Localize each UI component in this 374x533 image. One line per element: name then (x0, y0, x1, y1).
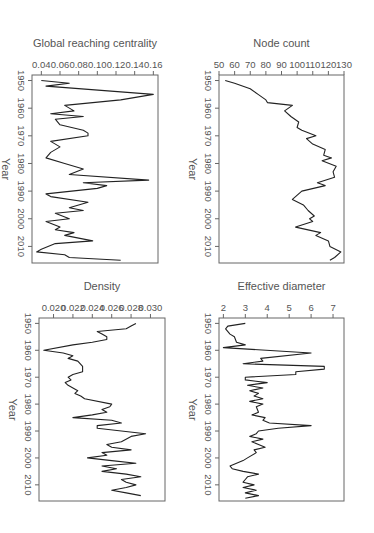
y-tick-label: 80 (261, 59, 272, 70)
data-line (37, 81, 154, 261)
panel-node-count: 1950196019701980199020002010506070809010… (187, 37, 352, 263)
x-axis-label: Year (187, 398, 199, 421)
panel-effective-diameter: 1950196019701980199020002010234567YearEf… (187, 280, 344, 501)
y-tick-label: 7 (330, 302, 335, 313)
x-tick-label: 1970 (203, 125, 214, 146)
x-tick-label: 2010 (203, 236, 214, 257)
y-tick-label: 50 (214, 59, 225, 70)
x-tick-label: 1950 (23, 313, 34, 334)
y-tick-label: 4 (265, 302, 270, 313)
y-tick-label: 0.12 (107, 59, 126, 70)
panel-density: 19501960197019801990200020100.0200.0220.… (7, 280, 165, 501)
y-tick-label: 3 (243, 302, 248, 313)
x-tick-label: 1980 (203, 394, 214, 415)
y-axis-label: Density (84, 280, 121, 292)
data-line (225, 81, 341, 261)
y-tick-label: 0.030 (139, 302, 163, 313)
x-tick-label: 1980 (23, 394, 34, 415)
y-tick-label: 0.08 (69, 59, 88, 70)
x-tick-label: 1960 (23, 340, 34, 361)
plot-frame (32, 75, 158, 263)
x-tick-label: 1960 (203, 98, 214, 119)
y-tick-label: 0.06 (51, 59, 70, 70)
y-tick-label: 90 (276, 59, 287, 70)
x-tick-label: 1970 (23, 367, 34, 388)
x-tick-label: 2000 (16, 208, 27, 229)
y-axis-label: Global reaching centrality (33, 37, 158, 49)
x-tick-label: 2010 (16, 236, 27, 257)
x-tick-label: 2010 (23, 474, 34, 495)
y-tick-label: 2 (221, 302, 226, 313)
x-tick-label: 1990 (203, 420, 214, 441)
y-tick-label: 6 (308, 302, 313, 313)
x-tick-label: 2010 (203, 474, 214, 495)
x-tick-label: 1970 (203, 367, 214, 388)
y-tick-label: 0.14 (125, 59, 144, 70)
data-line (44, 323, 146, 495)
x-axis-label: Year (7, 398, 19, 421)
x-tick-label: 1980 (16, 153, 27, 174)
x-tick-label: 1950 (16, 70, 27, 91)
y-tick-label: 70 (245, 59, 256, 70)
figure: 1950196019701980199020002010506070809010… (0, 0, 374, 533)
y-tick-label: 5 (287, 302, 292, 313)
x-axis-label: Year (187, 158, 199, 181)
data-line (223, 323, 324, 498)
x-tick-label: 1990 (203, 181, 214, 202)
x-tick-label: 2000 (203, 208, 214, 229)
y-tick-label: 130 (336, 59, 352, 70)
y-tick-label: 0.16 (144, 59, 163, 70)
y-tick-label: 60 (229, 59, 240, 70)
x-tick-label: 1970 (16, 125, 27, 146)
x-tick-label: 1960 (16, 98, 27, 119)
y-tick-label: 0.04 (32, 59, 51, 70)
x-tick-label: 2000 (203, 447, 214, 468)
y-tick-label: 0.10 (88, 59, 107, 70)
x-tick-label: 1950 (203, 313, 214, 334)
x-tick-label: 1990 (16, 181, 27, 202)
x-axis-label: Year (0, 158, 12, 181)
x-tick-label: 2000 (23, 447, 34, 468)
y-tick-label: 110 (305, 59, 320, 70)
x-tick-label: 1960 (203, 340, 214, 361)
panel-global-reaching-centrality: 19501960197019801990200020100.040.060.08… (0, 37, 163, 263)
x-tick-label: 1950 (203, 70, 214, 91)
x-tick-label: 1980 (203, 153, 214, 174)
plot-frame (219, 75, 344, 263)
y-axis-label: Node count (253, 37, 309, 49)
y-tick-label: 120 (320, 59, 336, 70)
x-tick-label: 1990 (23, 420, 34, 441)
y-axis-label: Effective diameter (238, 280, 326, 292)
y-tick-label: 100 (289, 59, 305, 70)
